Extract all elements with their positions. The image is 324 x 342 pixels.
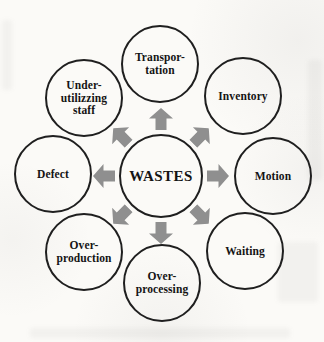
center-wastes-label: WASTES bbox=[129, 168, 192, 185]
node-defect-label: Defect bbox=[37, 168, 69, 181]
node-motion-label: Motion bbox=[255, 170, 291, 183]
node-under-utilizing-staff: Under- utilizzing staff bbox=[45, 59, 123, 137]
arrow-left-icon bbox=[93, 164, 115, 188]
node-waiting-label: Waiting bbox=[225, 245, 265, 258]
node-over-processing: Over- processing bbox=[123, 244, 201, 322]
arrow-right-icon bbox=[207, 164, 229, 188]
scan-noise bbox=[30, 328, 290, 338]
node-over-production: Over- production bbox=[45, 213, 123, 291]
scan-noise bbox=[308, 60, 322, 180]
node-under-utilizing-staff-label: Under- utilizzing staff bbox=[61, 79, 107, 118]
node-inventory: Inventory bbox=[204, 57, 282, 135]
arrow-down-icon bbox=[149, 222, 173, 244]
arrow-up-icon bbox=[149, 108, 173, 130]
node-inventory-label: Inventory bbox=[218, 90, 267, 103]
scan-noise bbox=[278, 242, 318, 302]
node-waiting: Waiting bbox=[206, 212, 284, 290]
scanned-page: Transpor- tation Inventory Motion Waitin… bbox=[0, 0, 324, 342]
node-over-processing-label: Over- processing bbox=[136, 270, 189, 296]
scan-noise bbox=[2, 20, 12, 90]
node-defect: Defect bbox=[14, 135, 92, 213]
node-over-production-label: Over- production bbox=[56, 239, 111, 265]
node-transportation: Transpor- tation bbox=[121, 25, 199, 103]
node-wastes-center: WASTES bbox=[119, 134, 203, 218]
node-transportation-label: Transpor- tation bbox=[135, 51, 185, 77]
node-motion: Motion bbox=[234, 137, 312, 215]
